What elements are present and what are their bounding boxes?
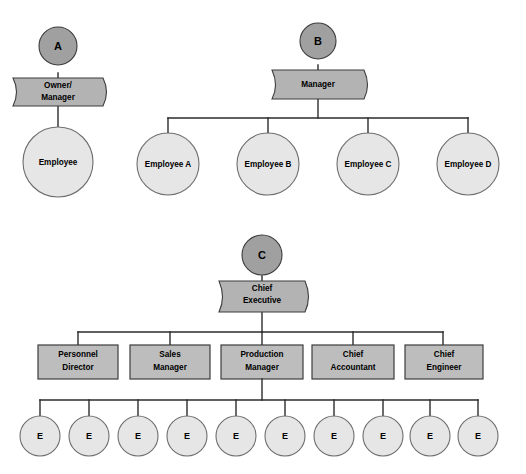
node-personnel-director-line2: Director	[62, 363, 94, 372]
section-badge-c-label: C	[258, 249, 266, 261]
node-sales-manager-line1: Sales	[159, 350, 181, 359]
section-b: B Manager Employee A Employee B Employee…	[137, 23, 499, 195]
node-e-1-label: E	[37, 431, 43, 441]
node-chief-accountant-line2: Accountant	[330, 363, 375, 372]
diagram-canvas: A Owner/ Manager Employee B Manager	[0, 0, 526, 474]
node-production-manager-line2: Manager	[245, 363, 279, 372]
node-e-2-label: E	[86, 431, 92, 441]
section-c: C Chief Executive Personnel Director Sal…	[20, 235, 498, 456]
node-chief-engineer-line1: Chief	[434, 350, 455, 359]
org-chart-diagram: A Owner/ Manager Employee B Manager	[0, 0, 526, 474]
node-e-7-label: E	[331, 431, 337, 441]
section-badge-a-label: A	[54, 40, 62, 52]
node-personnel-director-line1: Personnel	[58, 350, 98, 359]
node-employee-b-label: Employee B	[245, 160, 292, 169]
node-sales-manager-line2: Manager	[153, 363, 187, 372]
node-employee-a-section-label: Employee	[39, 158, 78, 167]
node-production-manager-line1: Production	[240, 350, 283, 359]
node-e-5-label: E	[233, 431, 239, 441]
node-chief-executive-line2: Executive	[243, 296, 282, 305]
node-employee-a-label: Employee A	[145, 160, 192, 169]
node-chief-accountant-line1: Chief	[343, 350, 364, 359]
node-owner-manager-line2: Manager	[41, 93, 75, 102]
node-e-9-label: E	[427, 431, 433, 441]
node-manager-label: Manager	[301, 80, 335, 89]
node-chief-executive-line1: Chief	[252, 284, 273, 293]
node-employee-d-label: Employee D	[445, 160, 492, 169]
node-e-10-label: E	[475, 431, 481, 441]
node-e-3-label: E	[135, 431, 141, 441]
node-owner-manager-line1: Owner/	[44, 81, 72, 90]
node-employee-c-label: Employee C	[345, 160, 392, 169]
node-e-6-label: E	[282, 431, 288, 441]
node-chief-engineer-line2: Engineer	[426, 363, 462, 372]
node-e-4-label: E	[184, 431, 190, 441]
section-a: A Owner/ Manager Employee	[13, 27, 107, 197]
section-badge-b-label: B	[314, 35, 322, 47]
node-e-8-label: E	[380, 431, 386, 441]
